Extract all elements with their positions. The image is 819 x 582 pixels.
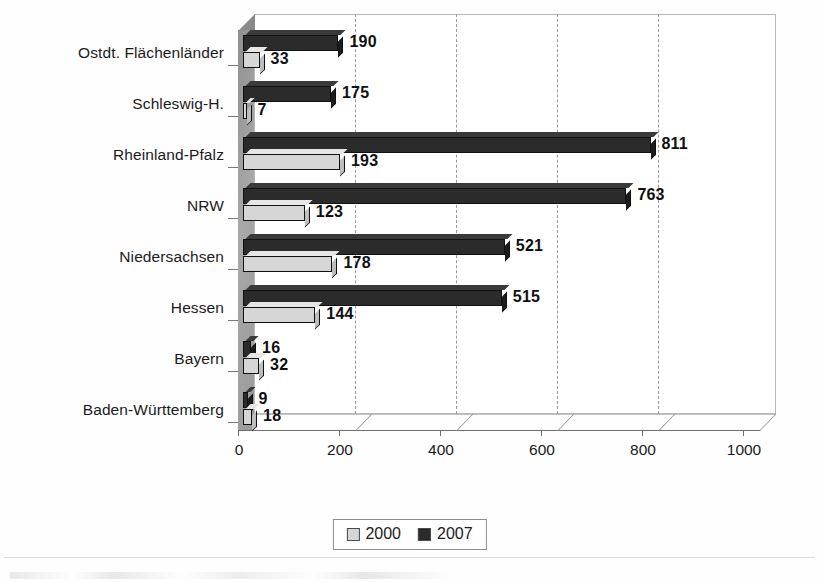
xtick-label: 1000: [727, 441, 761, 459]
bar-value-label: 7: [258, 101, 267, 119]
bar-side-face: [651, 139, 656, 160]
bar-2000-Baden-Württemberg: [243, 409, 252, 425]
bar-side-face: [315, 309, 320, 330]
tick-stub-600: [541, 430, 542, 436]
bar-value-label: 175: [342, 84, 369, 102]
bar-value-label: 811: [662, 135, 688, 153]
tick-stub-800: [642, 430, 643, 436]
bar-2000-Niedersachsen: [243, 256, 332, 272]
row-tick: [228, 269, 238, 270]
legend-item-2000[interactable]: 2000: [346, 525, 401, 543]
bar-value-label: 9: [259, 390, 268, 408]
tick-stub-400: [440, 430, 441, 436]
bar-2000-Hessen: [243, 307, 315, 323]
tick-stub-1000: [743, 430, 744, 436]
legend-swatch-icon: [418, 528, 431, 541]
row-tick: [228, 116, 238, 117]
category-label: Baden-Württemberg: [83, 401, 224, 419]
bar-face: [243, 358, 259, 374]
bar-face: [243, 205, 305, 221]
bar-value-label: 515: [513, 288, 540, 306]
category-label: Ostdt. Flächenländer: [78, 44, 224, 62]
bar-value-label: 190: [349, 33, 376, 51]
tick-stub-0: [238, 430, 239, 436]
row-tick: [228, 65, 238, 66]
bar-value-label: 178: [343, 254, 370, 272]
bar-value-label: 33: [271, 50, 289, 68]
row-tick: [228, 422, 238, 423]
bar-2007-Baden-Württemberg: [243, 392, 248, 408]
bar-value-label: 193: [351, 152, 378, 170]
bar-side-face: [260, 54, 265, 75]
legend-label: 2007: [437, 525, 473, 543]
category-label: Rheinland-Pfalz: [113, 146, 224, 164]
bar-side-face: [340, 156, 345, 177]
bar-side-face: [252, 411, 257, 432]
x-axis-line: [238, 430, 760, 431]
tick-stub-200: [339, 430, 340, 436]
row-tick: [228, 218, 238, 219]
bar-side-face: [259, 360, 264, 381]
bar-face: [243, 103, 247, 119]
page-rule: [4, 557, 815, 558]
bar-2000-Schleswig-H.: [243, 103, 247, 119]
bar-side-face: [331, 88, 336, 109]
bar-2000-NRW: [243, 205, 305, 221]
row-tick: [228, 371, 238, 372]
category-axis-labels: Ostdt. Flächenländer Schleswig-H. Rheinl…: [0, 14, 232, 426]
bar-side-face: [332, 258, 337, 279]
bar-side-face: [247, 105, 252, 126]
bar-value-label: 521: [516, 237, 543, 255]
category-label: Hessen: [171, 299, 224, 317]
bar-2007-Schleswig-H.: [243, 86, 331, 102]
bars-layer: 1903317578111937631235211785151441632918: [238, 14, 776, 430]
bar-value-label: 18: [263, 407, 281, 425]
bar-value-label: 763: [637, 186, 664, 204]
bar-2000-Rheinland-Pfalz: [243, 154, 340, 170]
bar-face: [243, 307, 315, 323]
bar-face: [243, 86, 331, 102]
bar-value-label: 123: [316, 203, 343, 221]
row-tick: [228, 167, 238, 168]
chart-legend: 2000 2007: [332, 519, 486, 550]
category-label: NRW: [187, 197, 224, 215]
legend-swatch-icon: [346, 528, 359, 541]
bar-value-label: 32: [270, 356, 288, 374]
xtick-label: 800: [630, 441, 656, 459]
xtick-label: 200: [327, 441, 353, 459]
bar-side-face: [338, 37, 343, 58]
bar-face: [243, 256, 332, 272]
bar-side-face: [305, 207, 310, 228]
bar-face: [243, 409, 252, 425]
bar-value-label: 144: [326, 305, 353, 323]
bar-face: [243, 154, 340, 170]
bar-side-face: [505, 241, 510, 262]
xtick-label: 0: [235, 441, 244, 459]
row-tick: [228, 320, 238, 321]
bar-2000-Bayern: [243, 358, 259, 374]
legend-item-2007[interactable]: 2007: [418, 525, 473, 543]
scan-artifact: [10, 572, 530, 579]
bar-face: [243, 392, 248, 408]
category-label: Bayern: [174, 350, 224, 368]
xtick-label: 400: [428, 441, 454, 459]
chart-page: Ostdt. Flächenländer Schleswig-H. Rheinl…: [0, 0, 819, 582]
category-label: Schleswig-H.: [132, 95, 224, 113]
bar-face: [243, 52, 260, 68]
bar-2000-Ostdt. Flächenländer: [243, 52, 260, 68]
legend-label: 2000: [365, 525, 401, 543]
xtick-label: 600: [529, 441, 555, 459]
category-label: Niedersachsen: [119, 248, 224, 266]
bar-side-face: [626, 190, 631, 211]
bar-side-face: [502, 292, 507, 313]
